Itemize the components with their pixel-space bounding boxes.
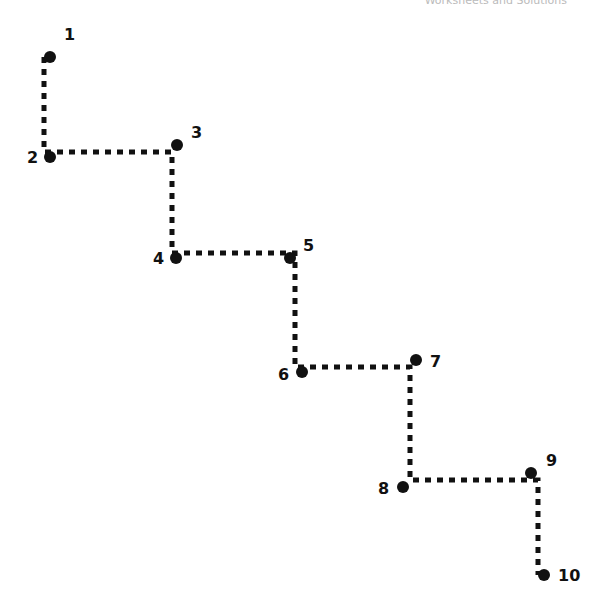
dot-label-3: 3 — [191, 123, 202, 142]
dot-label-1: 1 — [64, 25, 75, 44]
dot-3 — [171, 139, 183, 151]
dotted-path — [44, 57, 538, 575]
dot-7 — [410, 354, 422, 366]
dot-9 — [525, 467, 537, 479]
dot-label-6: 6 — [278, 365, 289, 384]
dot-label-10: 10 — [558, 566, 580, 585]
dot-label-5: 5 — [303, 236, 314, 255]
connect-the-dots-diagram: 12345678910 — [0, 0, 607, 605]
dot-label-8: 8 — [378, 479, 389, 498]
dot-label-2: 2 — [27, 148, 38, 167]
dot-8 — [397, 481, 409, 493]
dot-10 — [538, 569, 550, 581]
dot-label-7: 7 — [430, 352, 441, 371]
dot-label-9: 9 — [546, 451, 557, 470]
dot-2 — [44, 151, 56, 163]
dot-4 — [170, 252, 182, 264]
dot-5 — [284, 252, 296, 264]
dot-1 — [44, 51, 56, 63]
dot-label-4: 4 — [153, 249, 164, 268]
dot-6 — [296, 366, 308, 378]
